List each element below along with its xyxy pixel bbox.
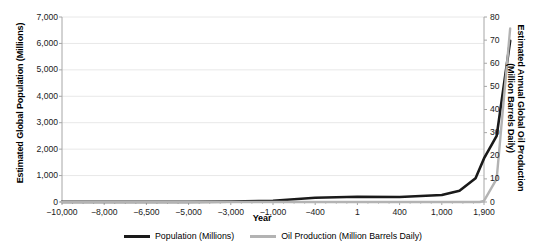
legend-label: Population (Millions) <box>155 231 234 241</box>
y-axis-right-tick-label: 0 <box>490 197 520 207</box>
y-axis-right-tick-label: 60 <box>490 58 520 68</box>
x-axis-tick-label: 1,900 <box>454 207 514 217</box>
y-axis-left-tick-label: 5,000 <box>14 64 58 74</box>
gridlines <box>62 17 484 202</box>
y-axis-left-tick-label: 2,000 <box>14 144 58 154</box>
legend-label: Oil Production (Million Barrels Daily) <box>281 231 422 241</box>
y-axis-left-tick-label: 4,000 <box>14 91 58 101</box>
chart-legend: Population (Millions)Oil Production (Mil… <box>0 231 546 241</box>
y-axis-right-tick-label: 80 <box>490 12 520 22</box>
chart-container: Estimated Global Population (Millions) E… <box>0 0 546 248</box>
legend-swatch <box>124 235 150 238</box>
legend-entry[interactable]: Population (Millions) <box>124 231 234 241</box>
y-axis-left-tick-label: 6,000 <box>14 38 58 48</box>
y-axis-left-tick-label: 3,000 <box>14 117 58 127</box>
legend-entry[interactable]: Oil Production (Million Barrels Daily) <box>250 231 422 241</box>
series-line-population <box>62 41 510 202</box>
legend-swatch <box>250 235 276 238</box>
y-axis-right-tick-label: 30 <box>490 127 520 137</box>
y-axis-right-tick-label: 40 <box>490 104 520 114</box>
y-axis-right-tick-label: 50 <box>490 81 520 91</box>
y-axis-right-tick-label: 10 <box>490 173 520 183</box>
y-axis-left-tick-label: 1,000 <box>14 170 58 180</box>
y-axis-right-tick-label: 70 <box>490 35 520 45</box>
axes <box>59 17 487 205</box>
y-axis-left-tick-label: 0 <box>14 197 58 207</box>
y-axis-right-tick-label: 20 <box>490 150 520 160</box>
y-axis-left-tick-label: 7,000 <box>14 12 58 22</box>
